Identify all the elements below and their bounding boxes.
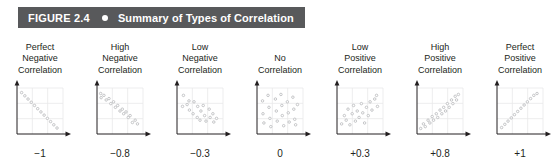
data-point	[122, 113, 125, 116]
panel-title-line: Low	[192, 42, 209, 53]
panel-title: PerfectPositiveCorrelation	[498, 40, 542, 76]
data-point	[429, 122, 432, 125]
panel-title: PerfectNegativeCorrelation	[18, 40, 62, 76]
axes	[255, 80, 311, 136]
panel-title-line: Correlation	[418, 65, 462, 76]
scatter-plot	[169, 80, 231, 142]
correlation-panel-high-positive: HighPositiveCorrelation+0.8	[400, 40, 480, 168]
data-point	[100, 96, 103, 99]
data-point	[188, 100, 191, 103]
correlation-panel-low-negative: LowNegativeCorrelation−0.3	[160, 40, 240, 168]
data-point	[431, 115, 434, 118]
data-points	[500, 92, 538, 129]
data-point	[371, 109, 374, 112]
data-points	[340, 94, 378, 126]
panel-correlation-value: +1	[514, 148, 525, 159]
panel-correlation-value: −0.3	[190, 148, 210, 159]
axes	[15, 80, 71, 136]
data-point	[287, 112, 290, 115]
panel-title-line: Correlation	[98, 65, 142, 76]
data-point	[362, 112, 365, 115]
data-point	[442, 106, 445, 109]
panel-correlation-value: −0.8	[110, 148, 130, 159]
panel-title-line: Perfect	[506, 42, 535, 53]
data-point	[261, 100, 264, 103]
correlation-panel-low-positive: LowPositiveCorrelation+0.3	[320, 40, 400, 168]
data-point	[507, 120, 510, 123]
data-point	[435, 113, 438, 116]
panel-title: LowNegativeCorrelation	[178, 40, 222, 76]
data-point	[292, 96, 295, 99]
data-point	[36, 107, 39, 110]
panel-title-line: Positive	[504, 53, 536, 64]
data-point	[275, 110, 278, 113]
x-axis-arrowhead	[226, 132, 232, 137]
data-point	[203, 114, 206, 117]
x-axis-arrowhead	[146, 132, 152, 137]
data-point	[455, 99, 458, 102]
data-point	[46, 117, 49, 120]
panel-title-line: Negative	[102, 53, 138, 64]
y-axis-arrowhead	[255, 80, 260, 86]
correlation-panel-strip: PerfectNegativeCorrelation−1HighNegative…	[0, 40, 560, 168]
data-point	[520, 107, 523, 110]
data-point	[131, 121, 134, 124]
data-point	[200, 110, 203, 113]
data-point	[33, 104, 36, 107]
data-point	[523, 104, 526, 107]
data-point	[274, 98, 277, 101]
data-point	[196, 105, 199, 108]
scatter-plot	[9, 80, 71, 142]
data-point	[108, 97, 111, 100]
data-point	[452, 102, 455, 105]
panel-correlation-value: 0	[277, 148, 283, 159]
data-point	[296, 103, 299, 106]
x-axis-arrowhead	[386, 132, 392, 137]
data-point	[49, 120, 52, 123]
data-point	[199, 119, 202, 122]
data-point	[136, 123, 139, 126]
data-point	[280, 93, 282, 96]
axes	[335, 80, 391, 136]
data-point	[441, 113, 444, 116]
panel-title-line: Low	[352, 42, 369, 53]
panel-title-line: Negative	[22, 53, 58, 64]
data-point	[457, 93, 460, 96]
correlation-panel-high-negative: HighNegativeCorrelation−0.8	[80, 40, 160, 168]
data-point	[450, 99, 453, 102]
x-axis-arrowhead	[466, 132, 472, 137]
data-point	[424, 125, 427, 128]
data-point	[293, 108, 296, 111]
data-point	[263, 122, 266, 125]
panel-title-line: Correlation	[18, 65, 62, 76]
data-point	[119, 110, 122, 113]
data-point	[343, 114, 346, 117]
data-point	[205, 120, 208, 123]
data-point	[99, 92, 102, 95]
data-point	[444, 110, 447, 113]
data-points	[99, 92, 138, 125]
panel-correlation-value: −1	[34, 148, 45, 159]
data-point	[213, 121, 216, 124]
data-point	[293, 118, 296, 121]
panel-title-line: Negative	[182, 53, 218, 64]
data-point	[419, 127, 422, 130]
data-point	[269, 117, 272, 120]
y-axis-arrowhead	[175, 80, 180, 86]
y-axis-arrowhead	[495, 80, 500, 86]
data-point	[181, 105, 184, 108]
data-point	[192, 113, 195, 116]
data-point	[375, 94, 378, 97]
panel-title-line: Positive	[344, 53, 376, 64]
panel-title-line: Correlation	[178, 65, 222, 76]
scatter-plot	[329, 80, 391, 142]
x-axis-arrowhead	[306, 132, 312, 137]
data-point	[103, 94, 106, 97]
data-point	[513, 113, 516, 116]
data-point	[188, 109, 191, 112]
data-point	[202, 104, 205, 107]
panel-title: HighNegativeCorrelation	[98, 40, 142, 76]
figure-header-bar: FIGURE 2.4 Summary of Types of Correlati…	[18, 7, 305, 28]
data-point	[500, 126, 503, 129]
data-point	[439, 109, 442, 112]
